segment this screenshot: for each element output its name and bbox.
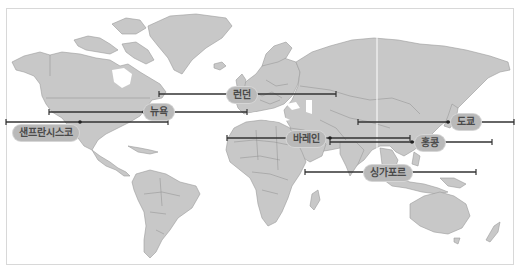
- city-label-bahrain[interactable]: 바레인: [287, 131, 326, 147]
- city-marker-dot: [446, 120, 450, 124]
- city-marker-dot: [410, 140, 414, 144]
- arctic-islands: [74, 36, 118, 54]
- australia: [410, 192, 470, 234]
- city-label-london[interactable]: 런던: [227, 87, 257, 103]
- central-america: [92, 150, 130, 176]
- new-guinea: [440, 178, 466, 188]
- city-label-new-york[interactable]: 뉴욕: [144, 104, 174, 120]
- city-label-hong-kong[interactable]: 홍콩: [415, 135, 445, 151]
- philippines: [412, 152, 420, 166]
- arctic-islands-2: [112, 18, 146, 34]
- caspian-sea: [306, 100, 312, 114]
- caribbean: [128, 146, 158, 154]
- new-zealand: [486, 222, 500, 242]
- city-marker-dot: [78, 120, 82, 124]
- baffin-island: [122, 42, 154, 64]
- madagascar: [310, 190, 320, 210]
- india: [340, 142, 364, 176]
- iceland: [214, 62, 226, 70]
- tasmania: [454, 238, 460, 244]
- city-label-san-francisco[interactable]: 샌프란시스코: [13, 125, 79, 141]
- city-label-tokyo[interactable]: 도쿄: [451, 114, 481, 130]
- city-label-singapore[interactable]: 싱가포르: [364, 165, 412, 181]
